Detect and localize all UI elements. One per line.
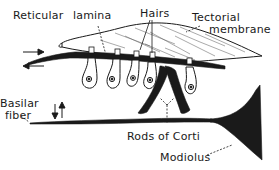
label-reticular: Reticular <box>13 10 63 21</box>
hair-cell <box>82 58 97 88</box>
modiolus-pointer <box>207 145 232 155</box>
hair-cell <box>127 60 139 86</box>
label-membrane: membrane <box>209 24 271 35</box>
modiolus <box>210 85 262 160</box>
rods-of-corti <box>138 66 190 114</box>
label-modiolus: Modiolus <box>160 152 210 163</box>
hair-cell <box>185 67 196 94</box>
hair-cell <box>144 62 157 89</box>
label-rods-of-corti: Rods of Corti <box>127 131 200 142</box>
corti-diagram: Reticular lamina Hairs Tectorial membran… <box>0 0 279 170</box>
label-basilar: Basilar <box>0 98 39 109</box>
vibration-arrows <box>52 102 65 119</box>
hair-cell <box>107 59 120 88</box>
label-tectorial: Tectorial <box>192 12 240 23</box>
label-fiber: fiber <box>5 110 31 121</box>
label-lamina: lamina <box>73 10 111 21</box>
basilar-fiber <box>30 118 212 124</box>
label-hairs: Hairs <box>140 8 169 19</box>
